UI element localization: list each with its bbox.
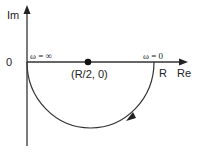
omega-zero-label: ω = 0 <box>143 52 163 61</box>
right-intercept-label: R <box>159 68 167 79</box>
origin-label: 0 <box>6 57 12 68</box>
y-axis-label: Im <box>7 10 19 21</box>
center-point-label: (R/2, 0) <box>71 69 108 80</box>
imaginary-axis-arrowhead <box>24 5 31 14</box>
omega-infinity-label: ω = ∞ <box>30 52 52 61</box>
center-point <box>85 59 92 66</box>
x-axis-label: Re <box>177 68 191 79</box>
real-axis-arrowhead <box>179 59 188 66</box>
